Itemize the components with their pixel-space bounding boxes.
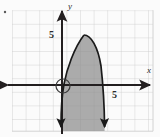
x-axis-label: x xyxy=(147,66,151,75)
graph-figure: y x 5 5 xyxy=(0,0,160,137)
x-axis-tick-label-5: 5 xyxy=(112,90,117,100)
y-axis-label: y xyxy=(68,2,72,11)
y-axis-tick-label-5: 5 xyxy=(49,30,54,40)
coordinate-plane-svg xyxy=(0,0,160,137)
corner-mark-icon xyxy=(4,11,6,13)
